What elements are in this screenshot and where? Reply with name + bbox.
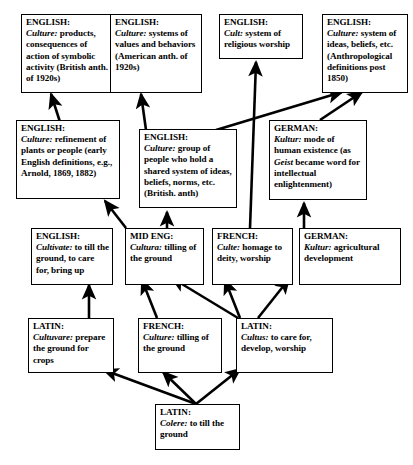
node-english-cultivate[interactable]: ENGLISH: Cultivate: to till the ground, … — [31, 228, 113, 285]
node-language: MID ENG: — [130, 231, 200, 242]
node-term: Cultivate: — [36, 242, 72, 252]
node-inline-term: Geist — [274, 157, 293, 167]
node-german-kultur-agri[interactable]: GERMAN: Kultur: agricultural development — [299, 228, 401, 285]
node-language: ENGLISH: — [36, 231, 109, 242]
edge-frculture-to-mideng — [142, 280, 157, 318]
node-language: ENGLISH: — [224, 17, 299, 28]
node-english-group[interactable]: ENGLISH: Culture: group of people who ho… — [139, 129, 237, 208]
node-body: Culture: products, consequences of actio… — [26, 28, 112, 84]
node-body: Cultus: to care for, develop, worship — [241, 332, 329, 354]
node-body: Kultur: agricultural development — [304, 242, 397, 264]
etymology-diagram: ENGLISH: Culture: products, consequences… — [0, 0, 413, 465]
node-term: Cultura: — [130, 242, 162, 252]
node-english-products[interactable]: ENGLISH: Culture: products, consequences… — [21, 14, 116, 93]
node-term: Culture: — [26, 28, 57, 38]
edge-mideng-to-refinement — [105, 201, 126, 228]
node-body: Kultur: mode of human existence (as Geis… — [274, 134, 363, 190]
node-language: ENGLISH: — [21, 123, 116, 134]
node-body: Cult: system of religious worship — [224, 28, 299, 50]
node-language: ENGLISH: — [327, 17, 404, 28]
node-body: Cultivate: to till the ground, to care f… — [36, 242, 109, 276]
edge-refinement-to-products — [51, 94, 60, 122]
edge-group-to-values — [141, 94, 146, 130]
node-language: LATIN: — [241, 321, 329, 332]
node-language: ENGLISH: — [115, 17, 198, 28]
node-body: Culture: systems of values and behaviors… — [115, 28, 198, 73]
node-mid-eng-cultura[interactable]: MID ENG: Cultura: tilling of the ground — [125, 228, 204, 285]
node-term: Colere: — [160, 418, 187, 428]
node-german-kultur-mode[interactable]: GERMAN: Kultur: mode of human existence … — [269, 120, 367, 200]
node-body: Culture: group of people who hold a shar… — [144, 143, 233, 199]
node-language: FRENCH: — [217, 231, 289, 242]
node-term: Cultuvare: — [33, 332, 73, 342]
node-term: Cult: — [224, 28, 243, 38]
node-latin-colere[interactable]: LATIN: Colere: to till the ground — [155, 404, 240, 450]
node-body: Culture: tilling of the ground — [143, 332, 218, 354]
node-french-culte[interactable]: FRENCH: Culte: homage to deity, worship — [212, 228, 293, 285]
node-term: Cultus: — [241, 332, 268, 342]
node-term: Kultur: — [274, 134, 301, 144]
node-term: Culture: — [115, 28, 146, 38]
node-language: LATIN: — [33, 321, 110, 332]
node-english-values[interactable]: ENGLISH: Culture: systems of values and … — [110, 14, 202, 93]
node-term: Culture: — [143, 332, 174, 342]
node-body: Culture: system of ideas, beliefs, etc. … — [327, 28, 404, 84]
node-term: Kultur: — [304, 242, 331, 252]
edge-colere-to-cultuvare — [104, 370, 196, 404]
node-latin-cultuvare[interactable]: LATIN: Cultuvare: prepare the ground for… — [28, 318, 114, 373]
node-language: LATIN: — [160, 407, 236, 418]
edge-colere-to-cultus — [196, 369, 240, 404]
node-body: Culte: homage to deity, worship — [217, 242, 289, 264]
node-english-refinement[interactable]: ENGLISH: Culture: refinement of plants o… — [16, 120, 120, 199]
node-english-cult[interactable]: ENGLISH: Cult: system of religious worsh… — [219, 14, 303, 59]
node-body: Cultuvare: prepare the ground for crops — [33, 332, 110, 366]
node-body: Colere: to till the ground — [160, 418, 236, 440]
node-language: FRENCH: — [143, 321, 218, 332]
node-language: GERMAN: — [304, 231, 397, 242]
edge-culte-to-cult — [250, 62, 256, 228]
node-term: Culture: — [327, 28, 358, 38]
node-term: Culte: — [217, 242, 240, 252]
node-term: Culture: — [21, 134, 52, 144]
node-language: GERMAN: — [274, 123, 363, 134]
node-body: Culture: refinement of plants or people … — [21, 134, 116, 179]
node-french-culture[interactable]: FRENCH: Culture: tilling of the ground — [138, 318, 222, 373]
node-term: Culture: — [144, 143, 175, 153]
node-language: ENGLISH: — [26, 17, 112, 28]
node-body: Cultura: tilling of the ground — [130, 242, 200, 264]
node-language: ENGLISH: — [144, 132, 233, 143]
node-english-ideas[interactable]: ENGLISH: Culture: system of ideas, belie… — [322, 14, 408, 93]
node-latin-cultus[interactable]: LATIN: Cultus: to care for, develop, wor… — [236, 318, 333, 373]
